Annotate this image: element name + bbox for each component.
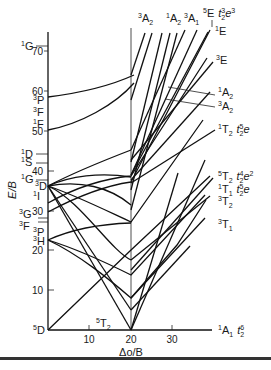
label-5T2-right: 5T2t42e2	[218, 170, 254, 184]
y-tick-10: 10	[32, 285, 44, 296]
top-state-labels: 3A2 1A2 3A1 5Et32e3 1E 3E	[138, 7, 235, 66]
label-5T2-mid: 5T2	[96, 317, 111, 331]
label-1E: 1E	[215, 25, 226, 37]
label-3E: 3E	[216, 54, 227, 66]
label-3A2-right: 3A2	[218, 100, 233, 114]
term-3F: 3F	[19, 220, 30, 232]
label-1A2-top: 1A2	[166, 12, 181, 26]
x-tick-30: 30	[166, 334, 178, 345]
curve-3P-upper	[48, 75, 134, 97]
term-1G: 1G	[21, 173, 33, 185]
energy-curves	[48, 20, 215, 330]
label-1T2: 1T2t52e	[218, 123, 250, 137]
x-tick-10: 10	[83, 334, 95, 345]
tanabe-sugano-chart: 10 20 30 40 50 60 70 10 20 30 Δo/B E/B	[0, 0, 271, 370]
y-tick-40: 40	[32, 166, 44, 177]
label-3A1-top: 3A1	[184, 12, 199, 26]
term-5D: 5D	[33, 324, 45, 336]
bottom-rule	[0, 357, 271, 360]
term-3P-top: 3P	[33, 94, 44, 106]
y-tick-70: 70	[32, 46, 44, 57]
y-tick-30: 30	[32, 206, 44, 217]
label-1A2-right: 1A2	[218, 86, 233, 100]
label-3T1: 3T1	[218, 218, 233, 232]
x-tick-20: 20	[125, 334, 137, 345]
y-ticks: 10 20 30 40 50 60 70	[32, 46, 54, 296]
term-3G: 3G	[19, 208, 31, 220]
right-state-labels: 1A2 3A2 1T2t52e 5T2t42e2 1T1t52e 3T2 3T1…	[96, 86, 254, 338]
term-1I: 1I	[33, 190, 40, 202]
term-1G-top: 1G	[21, 40, 33, 52]
label-1A1: 1A1t62	[218, 324, 244, 338]
label-5E: 5Et32e3	[203, 7, 235, 21]
label-3A2-top: 3A2	[138, 12, 153, 26]
y-axis-title: E/B	[6, 181, 18, 199]
term-1S: 1S	[21, 156, 32, 168]
term-3F-top: 3F	[33, 106, 44, 118]
label-3T2: 3T2	[218, 195, 233, 209]
